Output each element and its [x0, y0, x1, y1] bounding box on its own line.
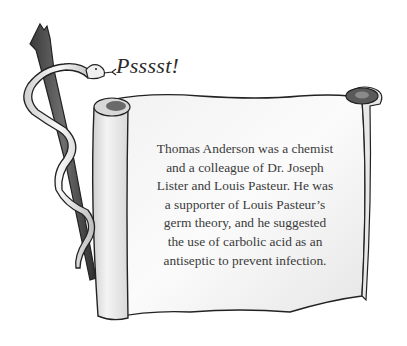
scroll-text: Thomas Anderson was a chemist and a coll… [140, 140, 350, 270]
scroll-text-line: Lister and Louis Pasteur. He was [140, 177, 350, 196]
scroll-text-line: Thomas Anderson was a chemist [140, 140, 350, 159]
scroll-text-line: a supporter of Louis Pasteur’s [140, 196, 350, 215]
scroll-text-line: the use of carbolic acid as an [140, 233, 350, 252]
illustration: Psssst! Thomas Anderson was a chemist an… [0, 0, 407, 346]
scroll-text-line: germ theory, and he suggested [140, 214, 350, 233]
speech-text: Psssst! [116, 53, 179, 79]
scroll-text-line: antiseptic to prevent infection. [140, 252, 350, 271]
scroll-text-line: and a colleague of Dr. Joseph [140, 159, 350, 178]
